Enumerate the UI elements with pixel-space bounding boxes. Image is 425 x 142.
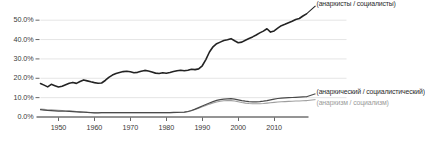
- x-tick-label: 1970: [110, 123, 150, 132]
- x-tick-label: 1980: [146, 123, 186, 132]
- gridlines: [41, 20, 347, 97]
- series-label-anarchic-socialist: (анархический / социалистический): [317, 88, 425, 95]
- y-tick-label: 40.0%: [14, 35, 34, 44]
- series-label-anarchists-socialists: (анархисты / социалисты): [317, 0, 396, 7]
- x-tick-label: 1960: [74, 123, 114, 132]
- x-tick-label: 1990: [182, 123, 222, 132]
- y-tick-marks: [36, 20, 40, 97]
- x-tick-label: 2000: [218, 123, 258, 132]
- x-tick-marks: [59, 118, 275, 122]
- y-tick-label: 0.0%: [18, 112, 34, 121]
- y-tick-label: 50.0%: [14, 15, 34, 24]
- y-tick-label: 30.0%: [14, 54, 34, 63]
- x-tick-label: 2010: [254, 123, 294, 132]
- series-label-anarchism-socialism: (анархизм / социализм): [317, 99, 389, 106]
- y-tick-label: 20.0%: [14, 73, 34, 82]
- x-tick-label: 1950: [38, 123, 78, 132]
- y-tick-label: 10.0%: [14, 93, 34, 102]
